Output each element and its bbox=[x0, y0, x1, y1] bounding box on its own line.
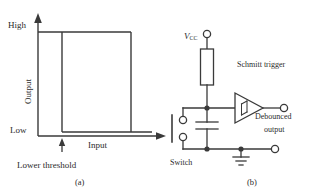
junction-dot-mid bbox=[204, 105, 209, 110]
y-axis-title: Output bbox=[24, 79, 33, 104]
junction-dot-ground bbox=[238, 146, 243, 151]
debounced-output-label-line2: output bbox=[264, 126, 284, 134]
figure-root: High Low Output Input Lower threshold (a… bbox=[0, 0, 315, 195]
lower-threshold-label: Lower threshold bbox=[17, 161, 76, 170]
vcc-label: VCC bbox=[184, 32, 198, 41]
vcc-label-sub: CC bbox=[190, 35, 198, 41]
debounced-output-label-line1: Debounced bbox=[255, 113, 291, 121]
ground-output-terminal bbox=[271, 145, 278, 152]
axis-label-high: High bbox=[8, 21, 26, 30]
axis-label-low: Low bbox=[10, 126, 27, 135]
vcc-terminal bbox=[203, 30, 210, 37]
lower-threshold-arrow bbox=[59, 138, 65, 152]
panel-a-caption: (a) bbox=[75, 178, 84, 187]
switch-label: Switch bbox=[170, 159, 192, 167]
output-terminal bbox=[280, 104, 287, 111]
y-axis-arrowhead bbox=[34, 13, 42, 23]
switch-contact-bottom bbox=[179, 133, 186, 140]
junction-dot-bottom bbox=[204, 146, 209, 151]
resistor-body bbox=[201, 49, 214, 85]
switch-contact-top bbox=[179, 116, 186, 123]
x-axis-title: Input bbox=[88, 141, 107, 150]
schmitt-trigger-label: Schmitt trigger bbox=[237, 61, 285, 69]
panel-b-caption: (b) bbox=[247, 178, 257, 187]
